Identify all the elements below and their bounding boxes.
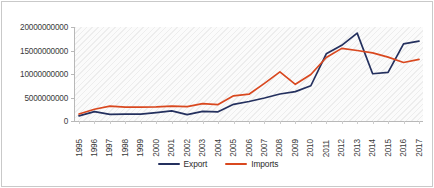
x-axis-tick-label: 2006 [245, 139, 254, 157]
x-axis-tick-labels: 1995199619971998199920002001200220032004… [75, 123, 423, 157]
y-axis-tick-mark [71, 98, 74, 99]
x-axis-tick-label: 1998 [121, 139, 130, 157]
x-axis-tick-label: 2008 [275, 139, 284, 157]
series-lines [75, 27, 423, 121]
x-axis-tick-label: 2002 [183, 139, 192, 157]
y-axis-tick-label: 10000000000 [0, 70, 68, 79]
y-axis-tick-label: 5000000000 [0, 93, 68, 102]
chart-container: 0500000000010000000000150000000002000000… [1, 1, 433, 187]
chart-legend: Export Imports [2, 159, 434, 169]
x-axis-tick-label: 2016 [399, 139, 408, 157]
x-axis-tick-label: 2000 [152, 139, 161, 157]
legend-swatch-imports [225, 163, 247, 165]
legend-label-export: Export [184, 159, 208, 169]
x-axis-tick-label: 2001 [167, 139, 176, 157]
line-export [79, 33, 419, 116]
y-axis-tick-mark [71, 51, 74, 52]
x-axis-tick-label: 1999 [136, 139, 145, 157]
legend-label-imports: Imports [251, 159, 278, 169]
x-axis-tick-label: 1995 [75, 139, 84, 157]
legend-item-imports[interactable]: Imports [225, 159, 278, 169]
y-axis-tick-mark [71, 27, 74, 28]
x-axis-tick-label: 2010 [306, 139, 315, 157]
y-axis-tick-mark [71, 74, 74, 75]
y-axis-tick-mark [71, 121, 74, 122]
x-axis-tick-label: 2015 [384, 139, 393, 157]
x-axis-tick-label: 2004 [214, 139, 223, 157]
x-axis-tick-label: 2009 [291, 139, 300, 157]
legend-swatch-export [158, 163, 180, 165]
plot-area [75, 27, 423, 121]
line-imports [79, 48, 419, 114]
x-axis-tick-label: 2005 [229, 139, 238, 157]
x-axis-tick-label: 2017 [415, 139, 424, 157]
y-axis-tick-label: 15000000000 [0, 46, 68, 55]
x-axis-tick-label: 2003 [198, 139, 207, 157]
x-axis-tick-label: 1996 [90, 139, 99, 157]
x-axis-tick-label: 2013 [353, 139, 362, 157]
x-axis-tick-label: 2012 [337, 139, 346, 157]
x-axis-tick-label: 2011 [322, 140, 331, 157]
x-axis-tick-label: 1997 [105, 139, 114, 157]
legend-item-export[interactable]: Export [158, 159, 208, 169]
y-axis-tick-label: 0 [0, 117, 68, 126]
x-axis-tick-label: 2007 [260, 139, 269, 157]
y-axis-tick-label: 20000000000 [0, 23, 68, 32]
x-axis-tick-label: 2014 [368, 139, 377, 157]
